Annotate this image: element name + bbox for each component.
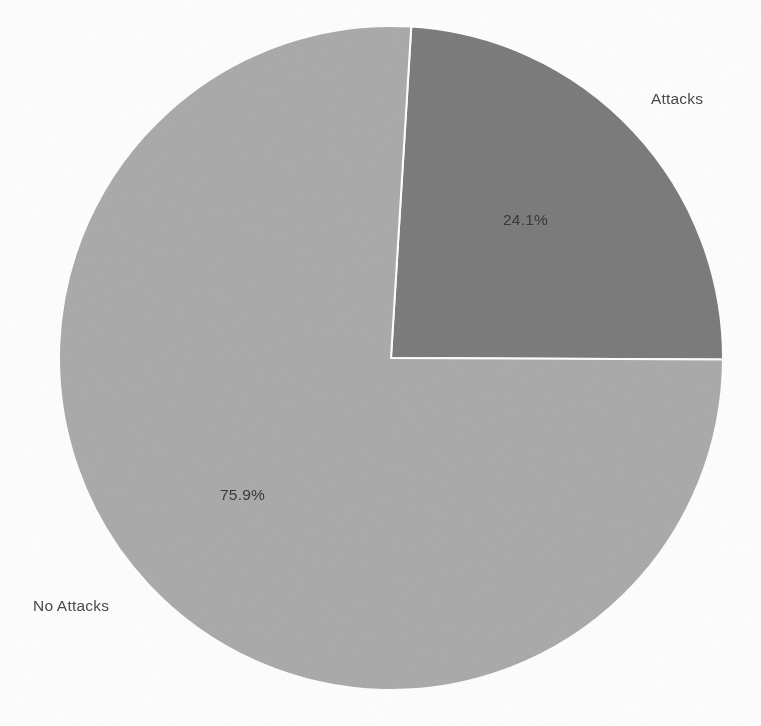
pie-outer-label-attacks: Attacks bbox=[651, 90, 703, 108]
pie-chart-figure: Attacks No Attacks 24.1% 75.9% bbox=[0, 0, 761, 726]
pie-wedges bbox=[59, 26, 723, 690]
pie-slice-attacks[interactable] bbox=[391, 27, 723, 360]
pie-chart-canvas bbox=[0, 0, 761, 726]
pie-outer-label-no-attacks: No Attacks bbox=[33, 597, 109, 615]
pie-percent-label-no-attacks: 75.9% bbox=[220, 486, 265, 504]
pie-percent-label-attacks: 24.1% bbox=[503, 211, 548, 229]
